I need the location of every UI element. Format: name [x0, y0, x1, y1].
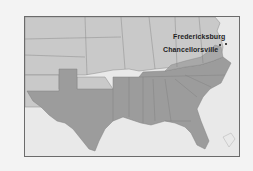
chancellorsville-label: Chancellorsville	[163, 46, 218, 53]
fredericksburg-marker-icon	[225, 43, 227, 45]
map-frame: Fredericksburg Chancellorsville	[24, 16, 240, 157]
chancellorsville-marker-icon	[219, 44, 221, 46]
fredericksburg-label: Fredericksburg	[173, 33, 225, 40]
